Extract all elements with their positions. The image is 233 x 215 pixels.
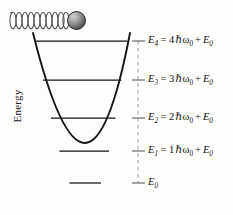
level-label-E1: E1=1ℏω0+E0 [148, 145, 213, 156]
equals-sign-E4: = [158, 34, 169, 45]
level-label-E3: E3=3ℏω0+E0 [148, 74, 213, 85]
plus-sign-E4: + [193, 34, 203, 45]
zero-point-E3: E0 [203, 73, 213, 84]
omega-subscript-E3: 0 [189, 79, 193, 87]
level-label-E2: E2=2ℏω0+E0 [148, 112, 213, 123]
equals-sign-E3: = [158, 73, 169, 84]
level-symbol-E1: E1 [148, 144, 158, 155]
omega-subscript-E1: 0 [189, 150, 193, 158]
equals-sign-E2: = [158, 111, 169, 122]
zero-point-E2: E0 [203, 111, 213, 122]
omega-subscript-E2: 0 [189, 117, 193, 125]
plus-sign-E3: + [193, 73, 203, 84]
level-symbol-E3: E3 [148, 73, 158, 84]
plus-sign-E1: + [193, 144, 203, 155]
omega-subscript-E4: 0 [189, 40, 193, 48]
level-label-E0: E0 [148, 177, 158, 188]
energy-level-lines [36, 41, 128, 183]
level-label-E4: E4=4ℏω0+E0 [148, 35, 213, 46]
diagram-canvas [0, 0, 233, 215]
zero-point-E4: E0 [203, 34, 213, 45]
y-axis-label-energy: Energy [11, 71, 23, 141]
level-symbol-E4: E4 [148, 34, 158, 45]
level-symbol-E0: E0 [148, 176, 158, 187]
oscillator-mass-ball [68, 12, 86, 30]
equals-sign-E1: = [158, 144, 169, 155]
energy-level-diagram: Energy E4=4ℏω0+E0 E3=3ℏω0+E0 E2=2ℏω0+E0 … [0, 0, 233, 215]
level-symbol-E2: E2 [148, 111, 158, 122]
parabola-potential-curve [33, 33, 130, 143]
spring-icon [10, 12, 69, 28]
plus-sign-E2: + [193, 111, 203, 122]
zero-point-E1: E0 [203, 144, 213, 155]
